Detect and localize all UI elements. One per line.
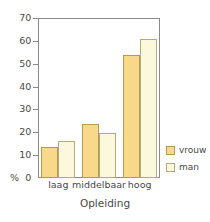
y-axis-tick-label: 40 (5, 82, 31, 92)
bar-chart: 010203040506070 % laagmiddelbaarhoog Opl… (0, 0, 210, 222)
bar-hoog-man (140, 39, 157, 178)
legend-swatch-icon-vrouw (166, 146, 175, 155)
x-axis-title: Opleiding (0, 197, 210, 209)
legend-label-man: man (179, 162, 199, 173)
y-axis-tick-label: 60 (5, 36, 31, 46)
y-axis-tick-label: 50 (5, 59, 31, 69)
bar-laag-man (58, 141, 75, 178)
bar-middelbaar-man (99, 133, 116, 178)
legend-swatch-icon-man (166, 163, 175, 172)
y-axis-tick-label: 30 (5, 104, 31, 114)
bars-layer (38, 18, 160, 178)
legend-item-vrouw: vrouw (166, 145, 206, 156)
bar-hoog-vrouw (123, 55, 140, 178)
x-axis-label-hoog: hoog (100, 180, 180, 190)
bar-laag-vrouw (41, 147, 58, 178)
legend: vrouw man (166, 145, 206, 179)
y-axis-tick-label: 20 (5, 127, 31, 137)
legend-label-vrouw: vrouw (179, 145, 206, 156)
y-axis-tick-label: 70 (5, 13, 31, 23)
y-axis-tick-label: 10 (5, 150, 31, 160)
legend-item-man: man (166, 162, 206, 173)
bar-middelbaar-vrouw (82, 124, 99, 178)
